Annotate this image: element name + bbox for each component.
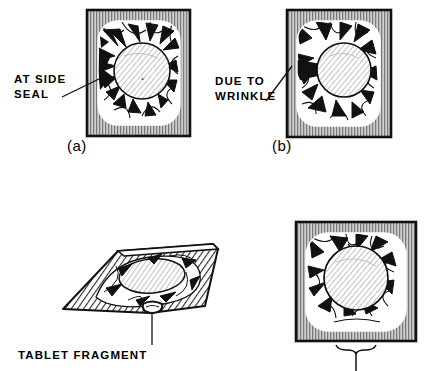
label-due-to-wrinkle: DUE TOWRINKLE bbox=[215, 74, 276, 104]
tablet-d bbox=[324, 246, 388, 310]
tablet-b bbox=[317, 43, 371, 97]
panel-c bbox=[63, 244, 218, 313]
label-at-side-seal: AT SIDESEAL bbox=[14, 72, 66, 102]
figure-illustration: ▲ bbox=[0, 0, 446, 371]
panel-b bbox=[287, 10, 391, 137]
label-at-side-seal-line1: AT SIDE bbox=[14, 73, 66, 85]
panel-a-window: ▲ bbox=[98, 21, 180, 125]
svg-text:▲: ▲ bbox=[140, 75, 145, 81]
caption-a: (a) bbox=[67, 137, 87, 154]
label-due-to-wrinkle-line1: DUE TO bbox=[215, 75, 265, 87]
label-at-side-seal-line2: SEAL bbox=[14, 88, 49, 100]
tablet-fragment bbox=[143, 302, 163, 314]
panel-d bbox=[296, 222, 416, 341]
figure-canvas: ▲ bbox=[0, 0, 446, 371]
label-due-to-wrinkle-line2: WRINKLE bbox=[215, 90, 276, 102]
tablet-a bbox=[114, 43, 170, 99]
panel-d-window bbox=[306, 233, 406, 331]
label-tablet-fragment: TABLET FRAGMENT bbox=[18, 348, 147, 363]
panel-a: ▲ bbox=[87, 10, 190, 136]
caption-b: (b) bbox=[272, 137, 292, 154]
panel-b-window bbox=[296, 21, 380, 126]
leader-panel-d-brace bbox=[336, 345, 376, 371]
